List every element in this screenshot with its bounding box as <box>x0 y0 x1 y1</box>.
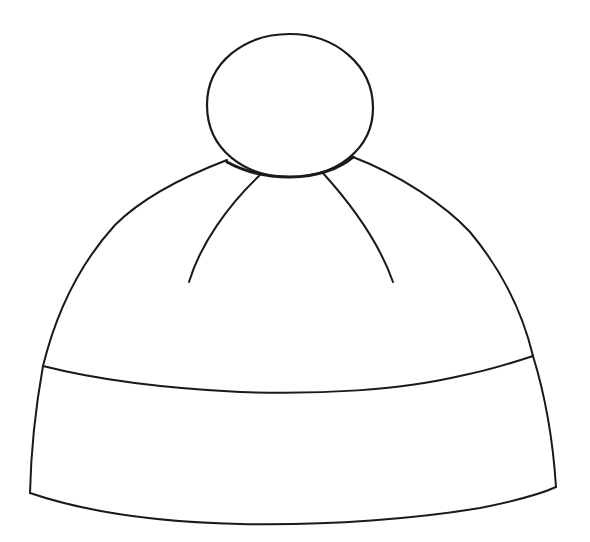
crown-right-outline <box>353 157 533 356</box>
pom-pom-outline <box>207 34 373 177</box>
crown-left-outline <box>43 160 227 366</box>
brim-left-edge <box>30 366 43 493</box>
right-seam-line <box>322 172 393 282</box>
drawing-canvas: Beanie hat with pom-pom line drawing <box>0 0 590 542</box>
brim-right-edge <box>533 356 556 487</box>
beanie-hat-drawing <box>0 0 590 542</box>
brim-top-line <box>43 356 533 393</box>
brim-bottom-line <box>30 487 556 524</box>
left-seam-line <box>189 175 260 282</box>
